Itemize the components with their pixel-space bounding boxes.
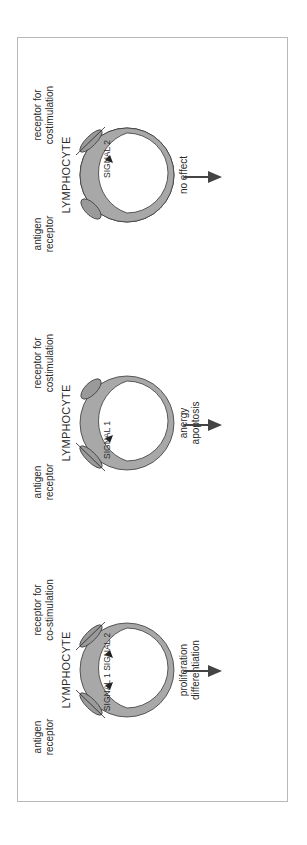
signal-label: SIGNAL 2 — [102, 140, 112, 178]
costim-receptor-label-line2: costimulation — [44, 334, 55, 392]
panel-signal1-only: LYMPHOCYTE antigen receptor receptor for… — [32, 334, 220, 501]
antigen-receptor-label-line2: receptor — [44, 215, 55, 252]
antigen-receptor-label-line1: antigen — [32, 466, 43, 499]
costim-receptor-label-line2: co-stimulation — [44, 579, 55, 641]
antigen-receptor-label-line1: antigen — [32, 218, 43, 251]
costim-receptor-label-line1: receptor for — [32, 584, 43, 636]
outcome-label-line1: anergy — [178, 408, 189, 439]
outcome-label-line1: no effect — [178, 156, 189, 194]
costim-receptor-label-line1: receptor for — [32, 337, 43, 389]
antigen-receptor-label-line1: antigen — [32, 721, 43, 754]
antigen-receptor-label-line2: receptor — [44, 718, 55, 755]
costim-receptor-label-line1: receptor for — [32, 89, 43, 141]
antigen-receptor-label-line2: receptor — [44, 463, 55, 500]
cell-title: LYMPHOCYTE — [60, 137, 72, 214]
signal-label: SIGNAL 1 SIGNAL 2 — [102, 633, 112, 712]
panel-signal1-and-signal2: LYMPHOCYTE antigen receptor receptor for… — [32, 579, 220, 755]
panel-signal2-only: LYMPHOCYTE antigen receptor receptor for… — [32, 86, 220, 253]
cell-title: LYMPHOCYTE — [60, 385, 72, 462]
signal-label: SIGNAL 1 — [102, 421, 112, 459]
lymphocyte-signaling-diagram: LYMPHOCYTE antigen receptor receptor for… — [0, 0, 307, 845]
outcome-label-line2: apoptosis — [190, 402, 201, 445]
costim-receptor-label-line2: costimulation — [44, 86, 55, 144]
cell-title: LYMPHOCYTE — [60, 632, 72, 709]
